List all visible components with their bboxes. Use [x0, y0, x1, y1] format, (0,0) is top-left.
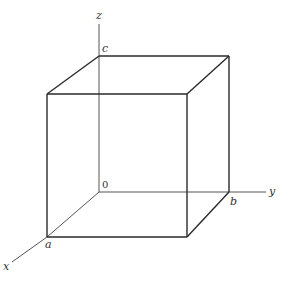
x-axis-label: x [3, 260, 10, 273]
x-axis-inner [47, 192, 99, 237]
z-axis-label: z [95, 9, 102, 22]
vertex-label-c: c [102, 42, 108, 55]
edge-b-ab [187, 192, 229, 237]
edge-c-ac [47, 56, 99, 94]
vertex-label-a: a [45, 238, 52, 251]
y-axis-label: y [268, 185, 276, 198]
edge-bc-abc [187, 56, 229, 94]
cube-diagram: z y x c b a 0 [0, 0, 295, 287]
vertex-label-b: b [230, 195, 237, 208]
x-axis [12, 237, 47, 262]
origin-label: 0 [102, 179, 108, 190]
